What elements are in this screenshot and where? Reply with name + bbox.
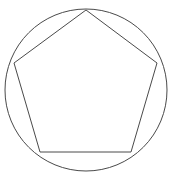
figure-background: [0, 0, 173, 181]
geometry-figure: [0, 0, 173, 181]
figure-canvas: Regular pentagon inscribed in a circle: [0, 0, 173, 181]
